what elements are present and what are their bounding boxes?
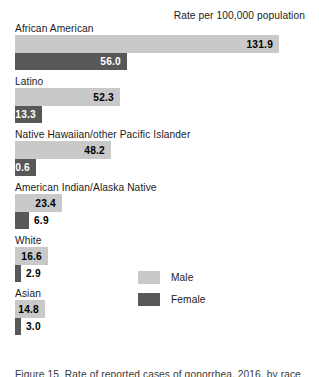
chart-bar-value-female: 10.6 (15, 159, 36, 176)
chart-group: Native Hawaiian/other Pacific Islander48… (0, 128, 319, 176)
chart-figure: Rate per 100,000 population African Amer… (0, 0, 319, 377)
chart-category-label: White (15, 234, 319, 247)
chart-bar-value-male: 14.8 (15, 300, 45, 318)
chart-group: African American131.956.0 (0, 22, 319, 70)
legend-label: Male (171, 272, 193, 283)
chart-bar-value-female: 2.9 (21, 265, 41, 282)
chart-axis-title: Rate per 100,000 population (174, 10, 305, 21)
figure-caption: Figure 15. Rate of reported cases of gon… (15, 369, 307, 377)
chart-bar-value-male: 16.6 (15, 247, 48, 265)
legend-label: Female (171, 294, 206, 305)
chart-bar-value-female: 13.3 (15, 106, 42, 123)
legend-item: Male (138, 266, 206, 288)
chart-category-label: African American (15, 22, 319, 35)
chart-bar-row-male: 131.9 (15, 35, 319, 53)
chart-category-label: Latino (15, 75, 319, 88)
legend-item: Female (138, 288, 206, 310)
chart-category-label: American Indian/Alaska Native (15, 181, 319, 194)
chart-bar-row-male: 52.3 (15, 88, 319, 106)
chart-group: Latino52.313.3 (0, 75, 319, 123)
chart-bar-value-male: 131.9 (15, 35, 279, 53)
chart-bar-row-male: 48.2 (15, 141, 319, 159)
legend-swatch-female (138, 293, 160, 306)
chart-bar-row-female: 6.9 (15, 212, 319, 229)
chart-legend: MaleFemale (138, 266, 206, 310)
chart-bar-value-female: 3.0 (21, 318, 41, 335)
chart-bar-value-male: 48.2 (15, 141, 111, 159)
chart-bar-row-male: 16.6 (15, 247, 319, 265)
chart-bar-row-female: 3.0 (15, 318, 319, 335)
chart-bar-value-male: 52.3 (15, 88, 120, 106)
chart-bar-value-male: 23.4 (15, 194, 62, 212)
chart-group: American Indian/Alaska Native23.46.9 (0, 181, 319, 229)
chart-bar-row-female: 13.3 (15, 106, 319, 123)
chart-bar-row-male: 23.4 (15, 194, 319, 212)
chart-bar-row-female: 10.6 (15, 159, 319, 176)
chart-bar-row-female: 56.0 (15, 53, 319, 70)
chart-bar-female (15, 212, 29, 229)
legend-swatch-male (138, 271, 160, 284)
chart-category-label: Native Hawaiian/other Pacific Islander (15, 128, 319, 141)
chart-bar-value-female: 6.9 (29, 212, 49, 229)
chart-bar-value-female: 56.0 (15, 53, 127, 70)
